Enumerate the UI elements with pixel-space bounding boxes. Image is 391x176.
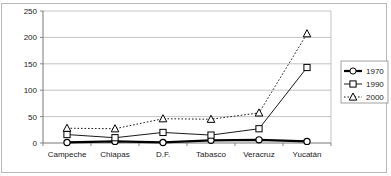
- chart-legend: 197019902000: [341, 61, 388, 103]
- x-axis-category-label: D.F.: [156, 150, 170, 159]
- data-point-marker-triangle: [255, 109, 263, 116]
- data-point-marker-circle: [160, 139, 166, 145]
- y-axis-tick-label: 100: [24, 86, 38, 95]
- x-axis-category-labels: CampecheChiapasD.F.TabascoVeracruzYucatá…: [48, 150, 322, 159]
- series-1990: [64, 64, 310, 140]
- series-line-1990: [67, 67, 307, 137]
- data-point-marker-circle: [256, 137, 262, 143]
- data-point-marker-square: [350, 81, 356, 87]
- data-point-marker-square: [64, 131, 70, 137]
- data-point-marker-circle: [304, 138, 310, 144]
- x-axis-category-label: Campeche: [48, 150, 87, 159]
- data-point-marker-circle: [64, 139, 70, 145]
- legend-label-2000: 2000: [366, 93, 384, 102]
- x-axis-category-label: Yucatán: [293, 150, 322, 159]
- data-point-marker-triangle: [111, 125, 119, 132]
- gridlines: [43, 11, 331, 117]
- y-axis-tick-label: 250: [24, 7, 38, 16]
- data-point-marker-square: [160, 129, 166, 135]
- data-point-marker-square: [304, 64, 310, 70]
- data-point-marker-square: [208, 132, 214, 138]
- series-line-2000: [67, 34, 307, 129]
- y-axis-tick-label: 200: [24, 33, 38, 42]
- legend-label-1990: 1990: [366, 80, 384, 89]
- data-point-marker-triangle: [63, 124, 71, 131]
- axes: [43, 11, 331, 143]
- legend-label-1970: 1970: [366, 67, 384, 76]
- x-axis-category-label: Chiapas: [100, 150, 129, 159]
- x-axis-category-label: Veracruz: [243, 150, 275, 159]
- y-axis-tick-label: 150: [24, 60, 38, 69]
- data-point-marker-square: [256, 126, 262, 132]
- data-series-layer: [63, 30, 311, 146]
- y-axis-tick-label: 50: [28, 113, 37, 122]
- y-axis-tick-label: 0: [33, 139, 38, 148]
- data-point-marker-triangle: [303, 30, 311, 37]
- data-point-marker-triangle: [159, 115, 167, 122]
- x-axis-category-label: Tabasco: [196, 150, 226, 159]
- y-axis-tick-labels: 050100150200250: [24, 7, 38, 148]
- series-line-1970: [67, 140, 307, 143]
- data-point-marker-circle: [350, 68, 356, 74]
- line-chart: 050100150200250 CampecheChiapasD.F.Tabas…: [0, 0, 391, 176]
- data-point-marker-square: [112, 135, 118, 141]
